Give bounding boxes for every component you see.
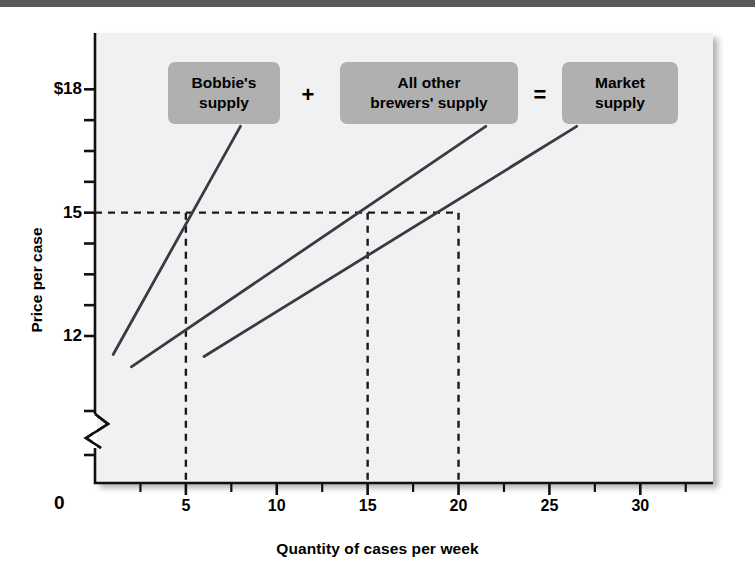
x-tick-label: 15 (342, 497, 394, 515)
x-tick-label: 10 (251, 497, 303, 515)
callout-all-other-brewers-supply-label: All otherbrewers' supply (370, 73, 487, 113)
x-tick-label: 20 (433, 497, 485, 515)
x-tick-label: 5 (160, 497, 212, 515)
figure-root: 1215$18 51015202530 0 Quantity of cases … (0, 0, 755, 579)
operator-equals: = (528, 82, 552, 108)
top-rule-bar (0, 0, 755, 7)
x-axis-title: Quantity of cases per week (0, 540, 755, 558)
origin-label: 0 (54, 492, 65, 514)
callout-market-supply: Marketsupply (562, 62, 678, 124)
x-tick-label: 25 (523, 497, 575, 515)
callout-bobbies-supply-label: Bobbie'ssupply (192, 73, 257, 113)
callout-bobbies-supply: Bobbie'ssupply (168, 62, 280, 124)
callout-market-supply-label: Marketsupply (595, 73, 645, 113)
y-tick-label: $18 (20, 79, 82, 99)
operator-plus: + (296, 82, 320, 108)
y-axis-title: Price per case (28, 170, 46, 390)
x-tick-label: 30 (614, 497, 666, 515)
callout-all-other-brewers-supply: All otherbrewers' supply (340, 62, 518, 124)
